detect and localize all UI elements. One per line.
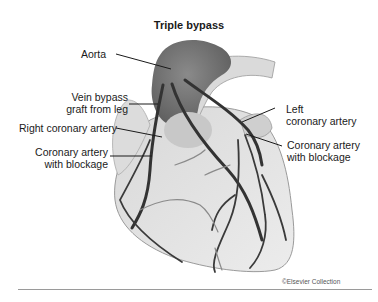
label-right-coronary-artery: Right coronary artery	[19, 122, 117, 134]
label-left-coronary-artery: Left coronary artery	[286, 103, 357, 127]
label-aorta: Aorta	[81, 48, 106, 60]
copyright-notice: ©Elsevier Collection	[282, 278, 340, 285]
label-blockage-left: Coronary artery with blockage	[31, 146, 108, 170]
bottom-divider	[18, 289, 372, 290]
label-blockage-right: Coronary artery with blockage	[287, 139, 360, 163]
label-vein-graft: Vein bypass graft from leg	[62, 91, 128, 115]
